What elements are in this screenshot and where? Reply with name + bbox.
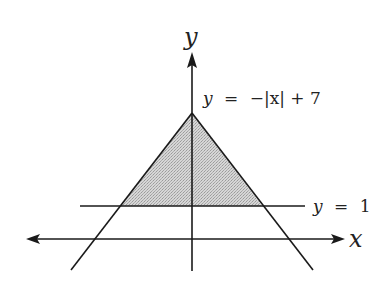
abs-equation-eq: = — [224, 88, 238, 108]
abs-equation-rhs: −|x| + 7 — [250, 88, 321, 108]
y-axis-label: y — [183, 23, 198, 51]
abs-equation-label: y = −|x| + 7 — [202, 88, 321, 108]
horizontal-line-rhs: 1 — [360, 196, 371, 216]
horizontal-line-eq: = — [334, 196, 348, 216]
shaded-region — [120, 113, 262, 206]
x-axis-label: x — [349, 225, 363, 253]
horizontal-line-lhs: y — [312, 196, 323, 216]
horizontal-line-label: y = 1 — [312, 196, 371, 216]
abs-equation-lhs: y — [202, 88, 213, 108]
coordinate-diagram: y x y = −|x| + 7 y = 1 — [0, 0, 388, 286]
